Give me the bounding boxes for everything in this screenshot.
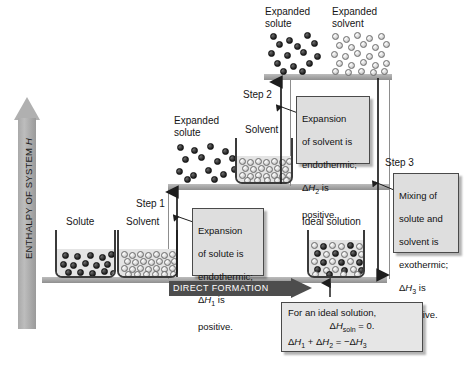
step3-label: Step 3 — [385, 157, 414, 168]
step1-callout-line2: of solute is — [198, 248, 258, 260]
step2-callout-line4: ΔH2 is — [302, 182, 364, 197]
step2-callout: Expansion of solvent is endothermic; ΔH2… — [296, 96, 370, 164]
step3-callout: Mixing of solute and solvent is exotherm… — [393, 173, 459, 253]
step2-callout-line3: endothermic; — [302, 159, 364, 171]
step3-callout-line5: ΔH3 is — [399, 282, 453, 297]
axis-label: ENTHALPY OF SYSTEM H — [23, 114, 34, 284]
expanded-solute-mid-label: Expanded solute — [174, 115, 219, 138]
step1-callout-line1: Expansion — [198, 225, 258, 237]
solute-beaker — [55, 230, 116, 278]
ideal-solution-summary-box: For an ideal solution, ΔHsoln = 0. ΔH1 +… — [281, 302, 423, 352]
enthalpy-axis-arrow: ENTHALPY OF SYSTEM H — [14, 97, 40, 329]
summary-line1: For an ideal solution, — [288, 307, 416, 320]
step2-callout-line2: of solvent is — [302, 136, 364, 148]
expanded-solute-top-label: Expanded solute — [265, 6, 310, 29]
beaker-liquid-solvent-mid — [237, 156, 291, 182]
solvent-beaker — [117, 230, 178, 278]
solute-beaker-label: Solute — [66, 216, 94, 228]
beaker-liquid-solute — [57, 249, 114, 276]
expanded-solute-mid-cloud — [174, 142, 237, 182]
step2-label: Step 2 — [243, 89, 272, 100]
step3-callout-line2: solute and — [399, 213, 453, 225]
step1-label: Step 1 — [136, 198, 165, 209]
solvent-mid-label: Solvent — [245, 124, 278, 136]
step3-callout-line3: solvent is — [399, 236, 453, 248]
expanded-solute-top-cloud — [266, 32, 321, 72]
step1-callout-line5: positive. — [198, 321, 258, 333]
guide-line-step3 — [389, 80, 390, 279]
ideal-solution-beaker — [307, 230, 365, 278]
summary-line2: ΔHsoln = 0. — [288, 320, 416, 336]
direct-formation-arrow: DIRECT FORMATION — [169, 281, 312, 296]
step2-callout-line5: positive. — [302, 209, 364, 221]
step1-callout: Expansion of solute is endothermic; ΔH1 … — [192, 208, 264, 276]
direct-formation-arrowhead — [291, 278, 312, 298]
direct-formation-label: DIRECT FORMATION — [173, 283, 269, 293]
expanded-solvent-top-cloud — [330, 32, 390, 72]
step3-callout-line4: exothermic; — [399, 259, 453, 271]
enthalpy-solution-diagram: ENTHALPY OF SYSTEM H Solute Solvent — [0, 0, 472, 370]
step1-callout-line4: ΔH1 is — [198, 294, 258, 309]
beaker-liquid-solvent — [119, 249, 176, 276]
solvent-beaker-mid — [235, 138, 293, 184]
beaker-liquid-ideal-solution — [309, 240, 363, 276]
solvent-beaker-label: Solvent — [126, 216, 159, 228]
expanded-solvent-top-label: Expanded solvent — [332, 6, 377, 29]
summary-line3: ΔH1 + ΔH2 = −ΔH3 — [288, 336, 416, 352]
step3-callout-line1: Mixing of — [399, 190, 453, 202]
step2-callout-line1: Expansion — [302, 113, 364, 125]
